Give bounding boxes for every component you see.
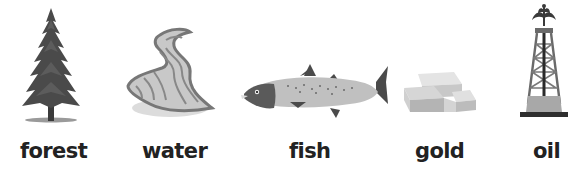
label-gold: gold [415, 138, 464, 164]
label-water: water [142, 138, 207, 164]
river-icon [110, 0, 230, 130]
resource-item-oil: oil [490, 0, 573, 186]
resource-item-fish: fish [230, 0, 390, 186]
pine-tree-icon [0, 0, 110, 130]
resource-item-gold: gold [390, 0, 490, 186]
label-forest: forest [20, 138, 87, 164]
label-fish: fish [289, 138, 330, 164]
gold-bars-icon [390, 0, 490, 130]
oil-derrick-icon [490, 0, 573, 130]
resource-item-water: water [110, 0, 230, 186]
label-oil: oil [533, 138, 560, 164]
resource-item-forest: forest [0, 0, 110, 186]
salmon-icon [230, 0, 390, 130]
